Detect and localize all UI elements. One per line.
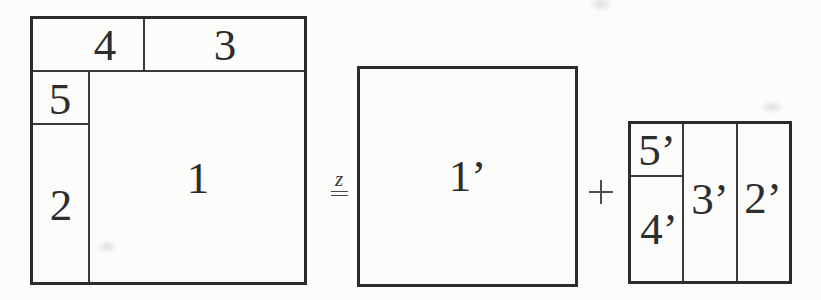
figure-canvas: 4 3 5 2 1 z 1’ 5’ 4’ 3’ 2’ bbox=[0, 0, 821, 300]
region-2-label: 2 bbox=[50, 183, 73, 228]
equals-sign-icon bbox=[331, 191, 348, 196]
left-dissected-square: 4 3 5 2 1 bbox=[30, 16, 307, 285]
scan-smudge bbox=[760, 100, 784, 114]
region5p-region4p-divider-line bbox=[631, 175, 682, 177]
col1-col2-divider-line bbox=[682, 124, 684, 281]
region-4-label: 4 bbox=[94, 23, 117, 68]
right-dissected-square: 5’ 4’ 3’ 2’ bbox=[628, 121, 792, 284]
middle-square: 1’ bbox=[357, 66, 578, 287]
region4-region3-divider-line bbox=[143, 19, 145, 70]
relation-z-superscript: z bbox=[335, 170, 343, 188]
plus-sign-icon bbox=[589, 180, 613, 204]
left-column-divider-line bbox=[88, 70, 90, 282]
scan-smudge bbox=[588, 0, 614, 12]
region-5prime-label: 5’ bbox=[638, 128, 676, 173]
col2-col3-divider-line bbox=[736, 124, 738, 281]
region-3-label: 3 bbox=[214, 23, 237, 68]
region-5-label: 5 bbox=[49, 77, 72, 122]
region-4prime-label: 4’ bbox=[640, 207, 678, 252]
region-1prime-label: 1’ bbox=[360, 69, 575, 284]
region-1-label: 1 bbox=[187, 156, 210, 201]
decomposition-equality-symbol: z bbox=[327, 170, 351, 196]
region-3prime-label: 3’ bbox=[691, 177, 729, 222]
region-2prime-label: 2’ bbox=[744, 176, 782, 221]
top-strip-divider-line bbox=[33, 70, 304, 72]
